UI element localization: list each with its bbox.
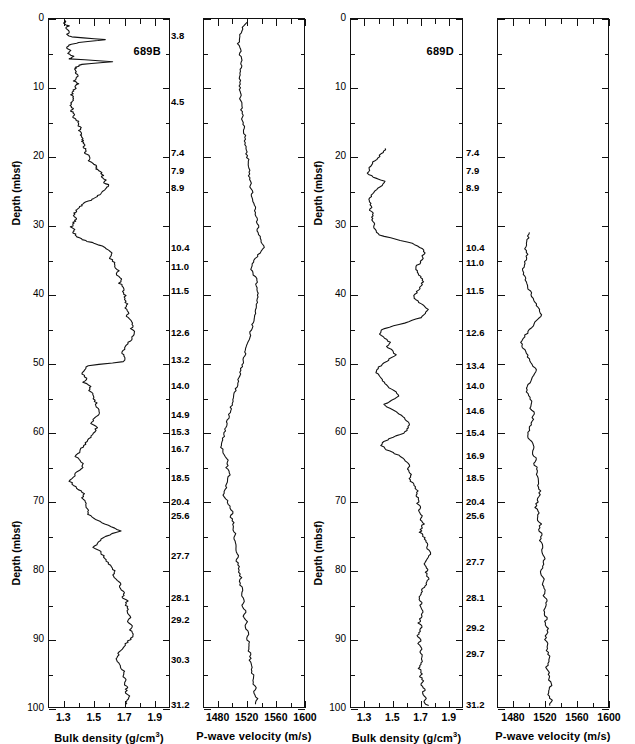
- core-number: 18.5: [466, 473, 500, 483]
- core-number: 4.5: [171, 97, 205, 107]
- data-trace-689d-bulk-density: [351, 19, 462, 707]
- core-number: 7.9: [171, 166, 205, 176]
- data-trace-689b-pwave-velocity: [204, 19, 304, 707]
- panel-689b-bulk-density: 689B: [48, 18, 170, 708]
- panel-689d-bulk-density: 689D: [350, 18, 463, 708]
- depth-axis-tick-label: 40: [14, 289, 44, 299]
- core-number: 31.2: [466, 700, 500, 710]
- core-number: 25.6: [171, 511, 205, 521]
- core-number: 16.9: [466, 451, 500, 461]
- depth-tick-major: [49, 709, 56, 710]
- core-number: 28.1: [466, 593, 500, 603]
- depth-tick-major: [456, 709, 463, 710]
- core-number: 30.3: [171, 655, 205, 665]
- core-number: 18.5: [171, 473, 205, 483]
- core-number: 12.6: [466, 328, 500, 338]
- core-number: 20.4: [466, 497, 500, 507]
- core-number: 10.4: [466, 243, 500, 253]
- depth-axis-tick-label: 40: [316, 289, 346, 299]
- depth-axis-tick-label: 50: [14, 358, 44, 368]
- depth-axis-tick-label: 60: [14, 427, 44, 437]
- core-number: 13.2: [171, 355, 205, 365]
- panel-689d-pwave-velocity: [497, 18, 609, 708]
- core-number: 7.4: [171, 148, 205, 158]
- core-number: 10.4: [171, 243, 205, 253]
- value-axis-tick-label: 1.9: [135, 712, 175, 723]
- depth-axis-tick-label: 10: [14, 82, 44, 92]
- value-tick-major: [305, 701, 306, 708]
- depth-axis-tick-label: 60: [316, 427, 346, 437]
- value-tick-major: [609, 701, 610, 708]
- data-trace-689b-bulk-density: [49, 19, 169, 707]
- core-number: 14.6: [466, 406, 500, 416]
- core-number: 12.6: [171, 328, 205, 338]
- core-number: 20.4: [171, 497, 205, 507]
- core-number: 8.9: [171, 183, 205, 193]
- depth-axis-tick-label: 100: [316, 703, 346, 713]
- depth-axis-tick-label: 50: [316, 358, 346, 368]
- core-number: 27.7: [466, 557, 500, 567]
- value-tick-major: [609, 19, 610, 26]
- core-number: 3.8: [171, 31, 205, 41]
- core-number: 27.7: [171, 551, 205, 561]
- core-number: 11.0: [466, 258, 500, 268]
- value-axis-tick-label: 1.9: [429, 712, 469, 723]
- core-number: 11.5: [466, 286, 500, 296]
- depth-tick-major: [351, 709, 358, 710]
- depth-tick-major: [602, 709, 609, 710]
- core-number: 16.7: [171, 444, 205, 454]
- core-number: 15.4: [466, 428, 500, 438]
- depth-axis-tick-label: 90: [14, 634, 44, 644]
- depth-axis-title: Depth (mbsf): [10, 505, 22, 601]
- data-trace-689d-pwave-velocity: [498, 19, 608, 707]
- core-number: 29.7: [466, 649, 500, 659]
- core-number: 7.4: [466, 148, 500, 158]
- core-number: 25.6: [466, 511, 500, 521]
- core-number: 8.9: [466, 183, 500, 193]
- core-number: 29.2: [171, 615, 205, 625]
- core-number: 14.9: [171, 410, 205, 420]
- core-number: 11.5: [171, 286, 205, 296]
- depth-axis-tick-label: 100: [14, 703, 44, 713]
- value-axis-tick-label: 1600: [589, 712, 629, 723]
- core-number: 13.4: [466, 361, 500, 371]
- depth-axis-tick-label: 0: [14, 13, 44, 23]
- core-number-column-689d: 7.47.98.910.411.011.512.613.414.014.615.…: [466, 0, 500, 742]
- depth-tick-major: [298, 709, 305, 710]
- panel-689b-pwave-velocity: [203, 18, 305, 708]
- axis-title-bulk-density: Bulk density (g/cm3): [29, 730, 189, 744]
- depth-axis-title: Depth (mbsf): [312, 145, 324, 241]
- depth-axis-tick-label: 10: [316, 82, 346, 92]
- depth-axis-tick-label: 0: [316, 13, 346, 23]
- depth-axis-tick-label: 90: [316, 634, 346, 644]
- core-number: 15.3: [171, 427, 205, 437]
- core-number-column-689b: 3.84.57.47.98.910.411.011.512.613.214.01…: [171, 0, 205, 742]
- depth-axis-title: Depth (mbsf): [312, 505, 324, 601]
- core-number: 29.2: [466, 623, 500, 633]
- core-number: 7.9: [466, 166, 500, 176]
- core-number: 14.0: [171, 381, 205, 391]
- depth-tick-major: [163, 709, 170, 710]
- value-tick-major: [305, 19, 306, 26]
- core-number: 11.0: [171, 262, 205, 272]
- axis-title-bulk-density: Bulk density (g/cm3): [327, 730, 487, 744]
- core-number: 28.1: [171, 593, 205, 603]
- value-axis-tick-label: 1600: [285, 712, 325, 723]
- core-number: 14.0: [466, 381, 500, 391]
- depth-axis-title: Depth (mbsf): [10, 145, 22, 241]
- core-number: 31.2: [171, 700, 205, 710]
